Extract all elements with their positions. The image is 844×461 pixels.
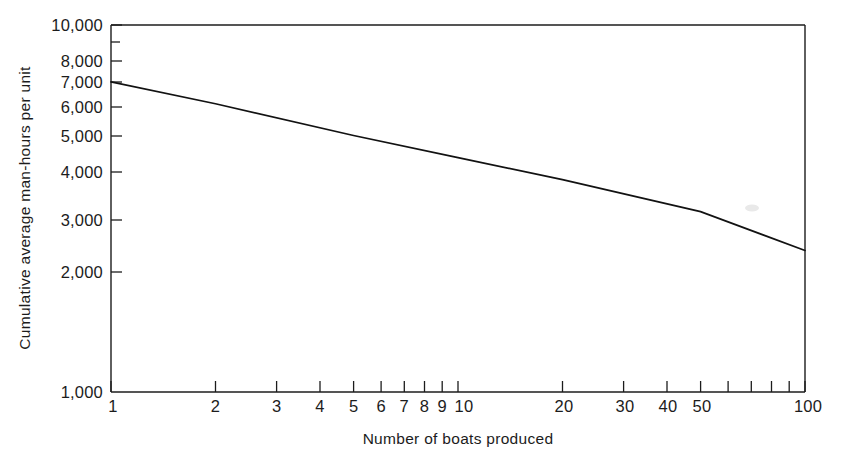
x-axis-tick-labels: 1 2 3 4 5 6 7 8 9 10 20 30 40 50 100 (108, 397, 822, 415)
chart-figure: 10,000 8,000 7,000 6,000 5,000 4,000 3,0… (0, 0, 844, 461)
y-axis-title: Cumulative average man-hours per unit (16, 66, 33, 350)
x-label-5: 5 (349, 397, 358, 415)
y-label-3000: 3,000 (61, 211, 103, 229)
x-label-20: 20 (555, 397, 574, 415)
x-axis-title: Number of boats produced (363, 430, 554, 447)
scan-artifact (745, 205, 759, 212)
x-label-7: 7 (400, 397, 409, 415)
y-label-4000: 4,000 (61, 163, 103, 181)
plot-area-background (111, 25, 805, 392)
y-label-8000: 8,000 (61, 52, 103, 70)
x-label-3: 3 (272, 397, 281, 415)
y-axis-tick-labels: 10,000 8,000 7,000 6,000 5,000 4,000 3,0… (51, 16, 103, 401)
x-axis-ticks (111, 381, 805, 392)
x-label-4: 4 (315, 397, 324, 415)
y-label-2000: 2,000 (61, 263, 103, 281)
y-label-10000: 10,000 (51, 16, 103, 34)
y-label-6000: 6,000 (61, 98, 103, 116)
x-label-100: 100 (794, 397, 822, 415)
y-label-5000: 5,000 (61, 127, 103, 145)
x-label-2: 2 (211, 397, 220, 415)
learning-curve-chart: 10,000 8,000 7,000 6,000 5,000 4,000 3,0… (0, 0, 844, 461)
y-label-7000: 7,000 (61, 73, 103, 91)
y-label-1000: 1,000 (61, 383, 103, 401)
x-label-40: 40 (659, 397, 678, 415)
x-label-30: 30 (616, 397, 635, 415)
x-label-1: 1 (108, 397, 117, 415)
x-label-9: 9 (438, 397, 447, 415)
x-label-50: 50 (693, 397, 712, 415)
x-label-10: 10 (455, 397, 474, 415)
x-label-8: 8 (420, 397, 429, 415)
x-label-6: 6 (376, 397, 385, 415)
